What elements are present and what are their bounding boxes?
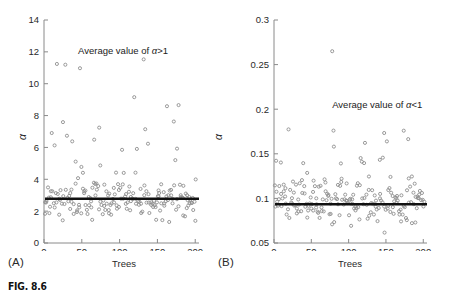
svg-text:4: 4 (34, 174, 39, 185)
figure-8-6: 02468101214050100150200 Average value of… (0, 0, 450, 299)
svg-text:0.25: 0.25 (251, 59, 270, 70)
panel-a-scatter-plot: 02468101214050100150200 (0, 6, 215, 251)
panel-a-annotation: Average value of α>1 (78, 45, 168, 56)
panel-b-x-axis-title: Trees (300, 258, 400, 269)
svg-text:50: 50 (77, 246, 88, 251)
svg-text:0: 0 (41, 246, 46, 251)
svg-text:0.3: 0.3 (256, 14, 269, 25)
svg-text:0: 0 (271, 246, 276, 251)
svg-text:0.05: 0.05 (251, 237, 270, 248)
figure-caption: FIG. 8.6 (8, 281, 47, 292)
svg-text:10: 10 (28, 78, 39, 89)
svg-text:6: 6 (34, 142, 39, 153)
annotation-text-after: <1 (411, 99, 422, 110)
svg-text:0: 0 (34, 237, 39, 248)
panel-b-scatter-plot: 0.050.10.150.20.250.3050100150200 (228, 6, 443, 251)
panel-a-svg: 02468101214050100150200 (0, 6, 215, 251)
svg-text:100: 100 (341, 246, 357, 251)
svg-text:150: 150 (149, 246, 165, 251)
svg-text:200: 200 (415, 246, 431, 251)
svg-text:0.2: 0.2 (256, 104, 269, 115)
svg-text:8: 8 (34, 110, 39, 121)
panel-b-y-axis-title: α (212, 120, 224, 140)
svg-text:150: 150 (378, 246, 394, 251)
panel-a-label: (A) (8, 256, 24, 268)
panel-a-y-axis-title: α (16, 120, 28, 140)
panel-b-annotation: Average value of α<1 (332, 99, 422, 110)
svg-text:2: 2 (34, 206, 39, 217)
svg-text:50: 50 (306, 246, 317, 251)
svg-text:100: 100 (112, 246, 128, 251)
annotation-text-before: Average value of (332, 99, 406, 110)
svg-text:0.1: 0.1 (256, 193, 269, 204)
svg-text:0.15: 0.15 (251, 148, 270, 159)
annotation-text-before: Average value of (78, 45, 152, 56)
svg-text:12: 12 (28, 46, 39, 57)
panel-a-x-axis-title: Trees (74, 258, 174, 269)
svg-text:14: 14 (28, 14, 39, 25)
svg-text:200: 200 (187, 246, 203, 251)
panel-b-label: (B) (218, 256, 234, 268)
annotation-text-after: >1 (157, 45, 168, 56)
panel-b-svg: 0.050.10.150.20.250.3050100150200 (228, 6, 443, 251)
